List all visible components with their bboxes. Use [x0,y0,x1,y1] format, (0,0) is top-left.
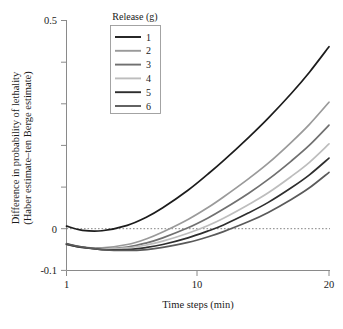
legend-label-4: 4 [146,73,151,84]
y-tick-label-top: 0.5 [44,15,57,26]
legend-label-5: 5 [146,87,151,98]
x-tick-label-20: 20 [324,279,335,290]
legend-box [111,26,161,114]
legend-label-2: 2 [146,45,151,56]
y-axis-title-line2: (Haber estimate–ten Berge estimate) [22,71,34,225]
y-axis-ticks [61,21,67,271]
data-curves [67,47,330,251]
legend-label-3: 3 [146,59,151,70]
legend-label-6: 6 [146,101,151,112]
y-axis-title-line1: Difference in probability of lethality [10,71,21,224]
curve-release-4 [67,144,330,249]
curve-release-1 [67,47,330,231]
y-tick-label-bottom: -0.1 [40,265,57,276]
x-tick-label-10: 10 [192,279,203,290]
curve-release-6 [67,172,330,250]
x-axis-ticks [67,271,330,277]
chart-figure: 0.5 0 -0.1 1 10 20 Time steps (min) Diff… [0,0,343,329]
y-tick-label-zero: 0 [52,224,57,235]
curve-release-5 [67,158,330,250]
legend-label-1: 1 [146,32,151,43]
x-axis-title: Time steps (min) [162,299,234,311]
curve-release-2 [67,102,330,248]
chart-svg: 0.5 0 -0.1 1 10 20 Time steps (min) Diff… [0,0,343,329]
x-tick-label-1: 1 [64,279,69,290]
legend: Release (g) 123456 [111,11,161,114]
legend-title: Release (g) [112,11,157,23]
